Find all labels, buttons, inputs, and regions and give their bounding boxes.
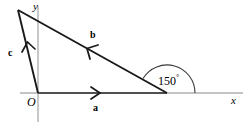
angle-value: 150 (158, 74, 176, 88)
vector-a-label: a (93, 103, 98, 113)
degree-symbol: ° (176, 73, 179, 82)
origin-label: O (27, 96, 36, 108)
vector-c-label: c (8, 48, 12, 58)
vector-b-line (18, 10, 167, 93)
y-axis-label: y (33, 1, 38, 12)
diagram-canvas (0, 0, 251, 127)
vector-b-label: b (90, 30, 96, 40)
vector-diagram: y x O a b c 150° (0, 0, 251, 127)
vector-c-line (18, 10, 38, 93)
angle-label: 150° (158, 74, 179, 87)
x-axis-label: x (231, 95, 236, 106)
